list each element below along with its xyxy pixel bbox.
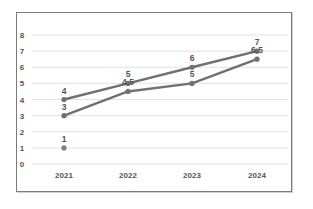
y-tick-label: 6	[20, 63, 25, 72]
y-tick-label: 8	[20, 31, 25, 40]
y-tick-label: 3	[20, 112, 25, 121]
data-point-marker	[125, 89, 130, 94]
x-tick-label: 2022	[119, 171, 137, 180]
line-chart: 0123456782021202220232024456734.556.51	[0, 0, 313, 209]
data-point-marker	[61, 113, 66, 118]
y-tick-label: 1	[20, 144, 25, 153]
y-tick-label: 4	[20, 96, 25, 105]
data-label: 4.5	[122, 77, 134, 87]
data-label: 1	[62, 134, 67, 144]
y-tick-label: 2	[20, 128, 25, 137]
x-tick-label: 2021	[55, 171, 73, 180]
y-tick-label: 0	[20, 160, 25, 169]
data-label: 5	[190, 69, 195, 79]
x-tick-label: 2023	[183, 171, 201, 180]
x-tick-label: 2024	[248, 171, 266, 180]
y-tick-label: 7	[20, 47, 25, 56]
data-label: 6	[190, 53, 195, 63]
series-line	[64, 51, 257, 99]
data-label: 4	[62, 86, 67, 96]
y-tick-label: 5	[20, 79, 25, 88]
data-label: 3	[62, 102, 67, 112]
data-point-marker	[189, 81, 194, 86]
data-label: 6.5	[251, 45, 263, 55]
data-point-marker	[61, 145, 66, 150]
data-point-marker	[254, 57, 259, 62]
series-line	[64, 59, 257, 115]
